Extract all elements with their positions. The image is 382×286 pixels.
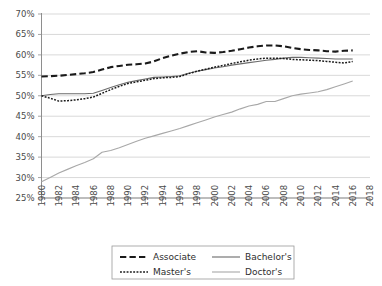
data-series [42, 45, 353, 181]
x-tick-label: 1986 [89, 185, 99, 207]
x-tick-label: 1980 [37, 185, 47, 207]
x-tick-label: 1994 [158, 185, 168, 207]
chart-legend: AssociateBachelor'sMaster'sDoctor's [112, 246, 294, 279]
legend-label-bachelor-s: Bachelor's [245, 252, 292, 262]
y-tick-label: 65% [16, 29, 35, 39]
legend-label-master-s: Master's [153, 267, 191, 277]
x-tick-label: 2018 [365, 185, 375, 207]
x-tick-label: 1990 [123, 185, 133, 207]
series-line-doctor-s [42, 81, 353, 182]
series-line-associate [42, 45, 353, 76]
x-axis: 1980198219841986198819901992199419961998… [37, 185, 376, 207]
x-tick-label: 2010 [296, 185, 306, 207]
x-tick-label: 2004 [244, 185, 254, 207]
x-tick-label: 2002 [227, 185, 237, 207]
y-axis: 70%65%60%55%50%45%40%35%30%25% [16, 9, 42, 203]
y-tick-label: 50% [16, 91, 35, 101]
y-tick-label: 60% [16, 50, 35, 60]
y-tick-label: 55% [16, 70, 35, 80]
series-line-master-s [42, 58, 353, 101]
legend-label-doctor-s: Doctor's [245, 267, 283, 277]
x-tick-label: 2000 [210, 185, 220, 207]
x-tick-label: 1982 [54, 185, 64, 207]
x-tick-label: 1984 [71, 185, 81, 207]
legend-label-associate: Associate [153, 252, 197, 262]
x-tick-label: 1988 [106, 185, 116, 207]
x-tick-label: 2016 [348, 185, 358, 207]
x-tick-label: 1998 [192, 185, 202, 207]
y-tick-label: 40% [16, 132, 35, 142]
x-tick-label: 2008 [279, 185, 289, 207]
y-tick-label: 30% [16, 173, 35, 183]
y-tick-label: 25% [16, 193, 35, 203]
x-tick-label: 1992 [140, 185, 150, 207]
y-tick-label: 45% [16, 111, 35, 121]
x-tick-label: 1996 [175, 185, 185, 207]
y-tick-label: 70% [16, 9, 35, 19]
line-chart: 70%65%60%55%50%45%40%35%30%25% 198019821… [0, 0, 382, 286]
x-tick-label: 2012 [313, 185, 323, 207]
series-line-bachelor-s [42, 57, 353, 95]
x-tick-label: 2006 [261, 185, 271, 207]
x-tick-label: 2014 [331, 185, 341, 207]
chart-container: 70%65%60%55%50%45%40%35%30%25% 198019821… [0, 0, 382, 286]
y-tick-label: 35% [16, 152, 35, 162]
gridlines [42, 14, 371, 198]
